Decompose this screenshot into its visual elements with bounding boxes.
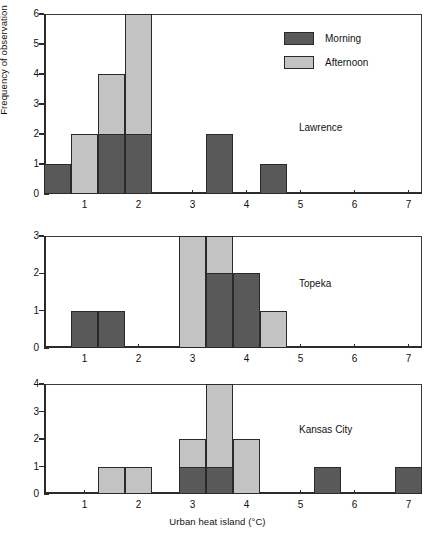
y-tick	[39, 466, 44, 467]
y-tick	[39, 383, 44, 384]
x-tick-label: 7	[399, 354, 419, 364]
legend-swatch-morning	[284, 32, 314, 45]
bar-afternoon	[98, 467, 125, 495]
x-axis-label: Urban heat island (°C)	[0, 516, 435, 527]
x-tick	[354, 490, 355, 494]
x-tick-label: 1	[75, 354, 95, 364]
x-tick	[300, 490, 301, 494]
y-tick	[39, 73, 44, 74]
x-tick-label: 4	[237, 500, 257, 510]
x-tick-label: 6	[345, 354, 365, 364]
bar-morning	[98, 134, 125, 194]
plot-area	[44, 384, 422, 494]
y-tick-label: 3	[25, 407, 39, 417]
bar-morning	[206, 273, 233, 348]
plot-area	[44, 14, 422, 194]
x-tick-label: 2	[129, 354, 149, 364]
y-tick-label: 2	[25, 129, 39, 139]
bar-afternoon	[260, 311, 287, 348]
legend-item-afternoon: Afternoon	[284, 56, 368, 69]
legend-swatch-afternoon	[284, 56, 314, 69]
x-tick-label: 3	[183, 354, 203, 364]
bar-afternoon	[179, 236, 206, 348]
x-tick	[408, 190, 409, 194]
bar-morning	[206, 467, 233, 495]
x-tick-label: 3	[183, 200, 203, 210]
x-tick-label: 5	[291, 354, 311, 364]
y-tick-label: 1	[25, 159, 39, 169]
panel-title: Topeka	[299, 278, 331, 289]
y-tick-label: 4	[25, 379, 39, 389]
bar-afternoon	[71, 134, 98, 194]
x-tick	[354, 344, 355, 348]
x-tick	[300, 190, 301, 194]
y-tick-label: 2	[25, 268, 39, 278]
y-tick	[39, 133, 44, 134]
plot-area	[44, 236, 422, 348]
panel-topeka: 01231234567Topeka	[44, 236, 422, 348]
panel-title: Kansas City	[299, 424, 352, 435]
y-tick-label: 3	[25, 99, 39, 109]
bar-morning	[314, 467, 341, 495]
legend-label: Afternoon	[325, 57, 368, 68]
y-tick	[44, 493, 49, 494]
x-tick-label: 4	[237, 354, 257, 364]
y-tick	[39, 273, 44, 274]
x-tick	[246, 190, 247, 194]
bar-morning	[179, 467, 206, 495]
x-tick-label: 5	[291, 200, 311, 210]
y-tick-label: 0	[25, 189, 39, 199]
x-tick-label: 1	[75, 200, 95, 210]
x-tick-label: 7	[399, 200, 419, 210]
y-tick	[39, 235, 44, 236]
y-tick-label: 0	[25, 489, 39, 499]
x-tick-label: 3	[183, 500, 203, 510]
bar-morning	[233, 273, 260, 348]
legend-label: Morning	[325, 33, 361, 44]
x-tick	[408, 344, 409, 348]
y-tick-label: 5	[25, 39, 39, 49]
bar-morning	[260, 164, 287, 194]
y-axis-label: Frequency of observation	[0, 0, 9, 160]
panel-kansas-city: 012341234567Kansas City	[44, 384, 422, 494]
y-tick	[39, 310, 44, 311]
x-tick	[300, 344, 301, 348]
y-tick	[39, 43, 44, 44]
x-tick-label: 4	[237, 200, 257, 210]
bar-morning	[71, 311, 98, 348]
x-tick	[192, 190, 193, 194]
y-tick-label: 4	[25, 69, 39, 79]
x-tick-label: 2	[129, 500, 149, 510]
panel-lawrence: 01234561234567LawrenceMorningAfternoon	[44, 14, 422, 194]
y-tick-label: 2	[25, 434, 39, 444]
x-tick-label: 7	[399, 500, 419, 510]
x-tick-label: 1	[75, 500, 95, 510]
bar-morning	[98, 311, 125, 348]
x-tick-label: 6	[345, 200, 365, 210]
x-tick-label: 2	[129, 200, 149, 210]
bar-morning	[125, 134, 152, 194]
y-tick	[39, 411, 44, 412]
bar-afternoon	[233, 439, 260, 494]
x-tick-label: 6	[345, 500, 365, 510]
y-tick	[39, 103, 44, 104]
bar-morning	[206, 134, 233, 194]
x-tick-label: 5	[291, 500, 311, 510]
legend-item-morning: Morning	[284, 32, 361, 45]
y-tick-label: 1	[25, 306, 39, 316]
y-tick	[39, 13, 44, 14]
y-tick-label: 6	[25, 9, 39, 19]
x-tick	[138, 344, 139, 348]
bar-morning	[395, 467, 422, 495]
y-tick	[39, 438, 44, 439]
panel-title: Lawrence	[299, 122, 342, 133]
x-tick	[84, 490, 85, 494]
y-tick-label: 3	[25, 231, 39, 241]
y-tick-label: 1	[25, 462, 39, 472]
bar-morning	[44, 164, 71, 194]
y-tick-label: 0	[25, 343, 39, 353]
chart-figure: Frequency of observation Urban heat isla…	[0, 0, 435, 536]
bar-afternoon	[125, 467, 152, 495]
x-tick	[354, 190, 355, 194]
y-tick	[44, 347, 49, 348]
